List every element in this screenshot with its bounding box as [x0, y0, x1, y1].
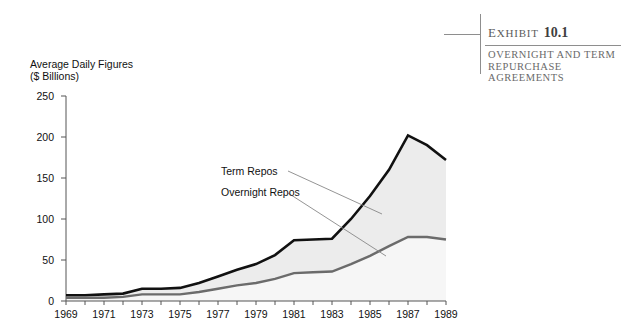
chart-page: EXHIBIT10.1 OVERNIGHT AND TERM REPURCHAS… — [0, 0, 621, 336]
x-axis-ticks — [66, 301, 446, 305]
overnight-repos-annotation: Overnight Repos — [221, 186, 300, 198]
x-tick-label: 1983 — [315, 308, 349, 320]
y-tick-label: 150 — [28, 172, 54, 184]
repo-area-chart — [0, 0, 621, 336]
x-tick-label: 1973 — [125, 308, 159, 320]
x-tick-label: 1987 — [391, 308, 425, 320]
x-tick-label: 1977 — [201, 308, 235, 320]
term-repos-annotation: Term Repos — [221, 165, 278, 177]
y-tick-label: 0 — [28, 295, 54, 307]
y-tick-label: 50 — [28, 254, 54, 266]
x-tick-label: 1985 — [353, 308, 387, 320]
x-tick-label: 1979 — [239, 308, 273, 320]
x-tick-label: 1975 — [163, 308, 197, 320]
y-tick-label: 250 — [28, 90, 54, 102]
y-tick-label: 200 — [28, 131, 54, 143]
x-tick-label: 1969 — [49, 308, 83, 320]
y-axis-ticks — [61, 96, 66, 301]
term-repos-leader-line — [288, 171, 382, 214]
x-tick-label: 1989 — [429, 308, 463, 320]
x-tick-label: 1971 — [87, 308, 121, 320]
y-tick-label: 100 — [28, 213, 54, 225]
x-tick-label: 1981 — [277, 308, 311, 320]
